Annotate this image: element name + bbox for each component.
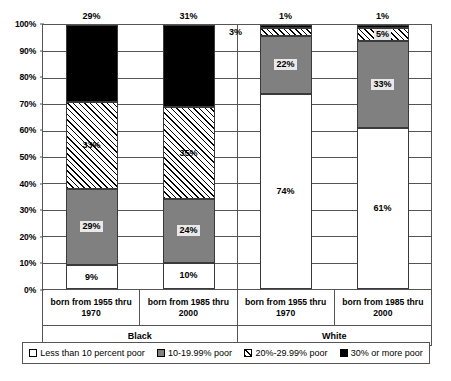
y-tick-label-60: 60% — [20, 126, 36, 135]
bar-segment-3-30-or-more[interactable] — [357, 25, 409, 28]
bar-top-label-0: 29% — [82, 11, 100, 21]
bar-outside-label-2-hatch: 3% — [229, 27, 242, 37]
y-tick-label-90: 90% — [20, 46, 36, 55]
bar-label-1-s1: 24% — [177, 225, 199, 236]
bar-segment-1-10-to-19[interactable]: 24% — [163, 199, 215, 262]
bar-segment-1-less-than-10[interactable]: 10% — [163, 263, 215, 289]
legend-label-3: 30% or more poor — [351, 349, 423, 358]
y-tick-label-80: 80% — [20, 73, 36, 82]
legend-item-10-to-19[interactable]: 10-19.99% poor — [157, 349, 232, 358]
bar-segment-0-30-or-more[interactable] — [66, 25, 118, 102]
plot-area: 9% 29% 33% 29% 10% 24% — [42, 24, 432, 290]
bar-column-2[interactable]: 74% 22% 3% 1% — [237, 25, 334, 289]
y-tick-label-0: 0% — [24, 286, 36, 295]
stacked-bar-1[interactable]: 10% 24% 35% — [163, 25, 215, 289]
bar-label-0-s0: 9% — [85, 273, 98, 282]
bar-segment-2-less-than-10[interactable]: 74% — [260, 94, 312, 289]
bar-label-3-s2: 5% — [374, 29, 391, 40]
bar-segment-0-less-than-10[interactable]: 9% — [66, 265, 118, 289]
y-tick-label-10: 10% — [20, 259, 36, 268]
y-tick-label-20: 20% — [20, 233, 36, 242]
chart-legend: Less than 10 percent poor 10-19.99% poor… — [22, 342, 430, 364]
bar-column-3[interactable]: 61% 33% 5% 1% — [334, 25, 431, 289]
bar-label-2-s0: 74% — [276, 187, 294, 196]
stacked-bar-2[interactable]: 74% 22% — [260, 25, 312, 289]
bar-label-1-s2: 35% — [179, 149, 197, 158]
bar-top-label-3: 1% — [376, 11, 389, 21]
bar-column-0[interactable]: 9% 29% 33% 29% — [43, 25, 140, 289]
legend-item-30-or-more[interactable]: 30% or more poor — [340, 349, 423, 358]
legend-label-2: 20%-29.99% poor — [255, 349, 327, 358]
bar-label-2-s1: 22% — [274, 59, 296, 70]
y-tick-label-40: 40% — [20, 179, 36, 188]
bar-label-0-s2: 33% — [82, 141, 100, 150]
legend-label-1: 10-19.99% poor — [168, 349, 232, 358]
category-label-0: born from 1955 thru 1970 — [43, 290, 140, 325]
bar-segment-1-30-or-more[interactable] — [163, 25, 215, 107]
legend-swatch-hatch-icon — [244, 349, 252, 357]
bar-segment-3-less-than-10[interactable]: 61% — [357, 128, 409, 289]
category-label-2: born from 1955 thru 1970 — [238, 290, 335, 325]
stacked-bar-0[interactable]: 9% 29% 33% — [66, 25, 118, 289]
bar-top-label-2: 1% — [279, 11, 292, 21]
bar-label-3-s0: 61% — [373, 204, 391, 213]
bar-segment-3-20-to-29[interactable]: 5% — [357, 28, 409, 41]
y-tick-label-50: 50% — [20, 153, 36, 162]
legend-swatch-black-icon — [340, 349, 348, 357]
bar-top-label-1: 31% — [179, 11, 197, 21]
bar-segment-2-10-to-19[interactable]: 22% — [260, 36, 312, 94]
y-tick-label-70: 70% — [20, 100, 36, 109]
bar-label-1-s0: 10% — [179, 271, 197, 280]
category-axis: born from 1955 thru 1970 born from 1985 … — [42, 290, 432, 326]
bar-label-0-s1: 29% — [80, 221, 102, 232]
legend-swatch-white-icon — [29, 349, 37, 357]
bar-label-3-s1: 33% — [371, 79, 393, 90]
bar-segment-2-30-or-more[interactable] — [260, 25, 312, 28]
legend-item-less-than-10[interactable]: Less than 10 percent poor — [29, 349, 145, 358]
bar-segment-0-20-to-29[interactable]: 33% — [66, 102, 118, 189]
bar-segment-2-20-to-29[interactable] — [260, 28, 312, 36]
y-tick-label-30: 30% — [20, 206, 36, 215]
y-axis: 100% 90% 80% 70% 60% 50% 40% 30% 20% 10%… — [0, 24, 40, 290]
stacked-bar-3[interactable]: 61% 33% 5% — [357, 25, 409, 289]
bar-column-1[interactable]: 10% 24% 35% 31% — [140, 25, 237, 289]
category-label-1: born from 1985 thru 2000 — [140, 290, 237, 325]
y-tick-label-100: 100% — [15, 20, 36, 29]
legend-label-0: Less than 10 percent poor — [40, 349, 145, 358]
legend-item-20-to-29[interactable]: 20%-29.99% poor — [244, 349, 327, 358]
stacked-bar-chart: 100% 90% 80% 70% 60% 50% 40% 30% 20% 10%… — [0, 0, 451, 381]
bar-segment-1-20-to-29[interactable]: 35% — [163, 107, 215, 199]
bar-segment-3-10-to-19[interactable]: 33% — [357, 41, 409, 128]
category-label-3: born from 1985 thru 2000 — [335, 290, 431, 325]
bar-segment-0-10-to-19[interactable]: 29% — [66, 189, 118, 266]
legend-swatch-gray-icon — [157, 349, 165, 357]
